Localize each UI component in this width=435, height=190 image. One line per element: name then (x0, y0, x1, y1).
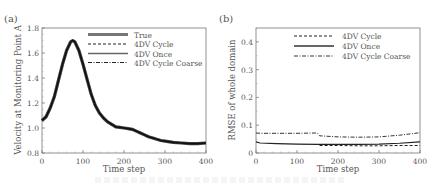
ytick-label: 1.8 (27, 24, 39, 33)
panel-b-ylabel: RMSE of whole domain (227, 39, 237, 141)
figure: (a) 0.81.01.21.41.61.8 0100200300400 Vel… (0, 0, 435, 190)
panel-b-xlabel: Time step (317, 164, 360, 174)
ytick-label: 0.1 (241, 121, 253, 130)
series-4dv-cycle-coarse-line (256, 133, 420, 138)
ytick-label: 1.4 (27, 74, 39, 83)
ytick-label: 0 (248, 149, 253, 158)
xtick-label: 400 (199, 157, 214, 166)
panel-b-frame (256, 28, 420, 153)
xtick-label: 300 (158, 157, 173, 166)
xtick-label: 100 (76, 157, 91, 166)
legend-label-4dv-cycle: 4DV Cycle (134, 40, 174, 49)
panel-a-ylabel: Velocity at Monitoring Point A (13, 24, 23, 156)
legend-label-4dv-cycle: 4DV Cycle (342, 32, 382, 41)
xtick-label: 0 (254, 157, 259, 166)
ytick-label: 1.0 (27, 124, 39, 133)
legend-label-4dv-cycle-coarse: 4DV Cycle Coarse (342, 52, 411, 61)
xtick-label: 0 (40, 157, 45, 166)
panel-b: (b) 00.10.20.30.4 0100200300400 RMSE of … (219, 13, 427, 174)
legend-label-4dv-cycle-coarse: 4DV Cycle Coarse (134, 59, 203, 68)
panel-a: (a) 0.81.01.21.41.61.8 0100200300400 Vel… (4, 13, 213, 174)
figure-caption-blurred (95, 177, 345, 183)
panel-b-label: (b) (219, 13, 233, 24)
ytick-label: 0.8 (27, 149, 39, 158)
ytick-label: 1.6 (27, 49, 39, 58)
ytick-label: 0.3 (241, 66, 253, 75)
panel-a-xlabel: Time step (103, 164, 146, 174)
panel-a-label: (a) (4, 13, 18, 24)
panel-a-legend: True 4DV Cycle 4DV Once 4DV Cycle Coarse (88, 31, 203, 68)
legend-label-4dv-once: 4DV Once (342, 42, 381, 51)
ytick-label: 1.2 (27, 99, 39, 108)
xtick-label: 100 (290, 157, 305, 166)
xtick-label: 300 (372, 157, 387, 166)
panel-b-legend: 4DV Cycle 4DV Once 4DV Cycle Coarse (294, 32, 411, 61)
legend-label-4dv-once: 4DV Once (134, 50, 173, 59)
ytick-label: 0.2 (241, 93, 253, 102)
series-4dv-once-line (256, 142, 420, 145)
xtick-label: 400 (413, 157, 428, 166)
legend-label-true: True (134, 31, 152, 40)
ytick-label: 0.4 (241, 38, 253, 47)
